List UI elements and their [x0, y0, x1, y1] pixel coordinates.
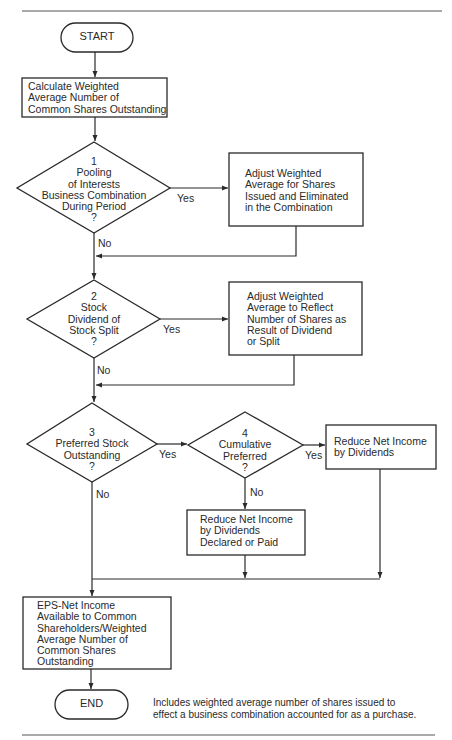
d4-no-label: No: [250, 486, 263, 498]
calc-box-text: Calculate Weighted Average Number of Com…: [28, 81, 166, 115]
text-line: Cumulative: [205, 439, 285, 450]
text-line: Common Shares Outstanding: [28, 104, 166, 115]
decision-3-text: 3 Preferred Stock Outstanding ?: [42, 427, 142, 472]
text-line: Outstanding: [37, 656, 147, 667]
d2-no-label: No: [97, 364, 110, 376]
adjust-split-text: Adjust Weighted Average to Reflect Numbe…: [247, 291, 346, 347]
footnote-line: Includes weighted average number of shar…: [153, 697, 416, 709]
d1-no-label: No: [98, 237, 111, 249]
footnote-line: effect a business combination accounted …: [153, 709, 416, 721]
text-line: or Split: [247, 336, 346, 347]
text-line: ?: [205, 462, 285, 473]
d2-yes-label: Yes: [163, 323, 180, 335]
reduce-declared-paid-text: Reduce Net Income by Dividends Declared …: [200, 514, 293, 548]
text-line: Stock: [44, 302, 144, 313]
text-line: Available to Common: [37, 611, 147, 622]
d3-no-label: No: [96, 488, 109, 500]
d4-yes-label: Yes: [305, 449, 322, 461]
return-line-1: [96, 226, 296, 256]
text-line: Average Number of: [28, 92, 166, 103]
text-line: ?: [44, 336, 144, 347]
text-line: in the Combination: [245, 202, 348, 213]
text-line: ?: [42, 461, 142, 472]
text-line: ?: [34, 212, 154, 223]
text-line: by Dividends: [334, 447, 427, 458]
reduce-by-dividends-text: Reduce Net Income by Dividends: [334, 436, 427, 459]
decision-4-text: 4 Cumulative Preferred ?: [205, 428, 285, 473]
text-line: Pooling: [34, 167, 154, 178]
text-line: Average to Reflect: [247, 302, 346, 313]
text-line: Average for Shares: [245, 179, 348, 190]
end-label: END: [55, 698, 128, 709]
text-line: Declared or Paid: [200, 537, 293, 548]
text-line: by Dividends: [200, 525, 293, 536]
return-line-2: [96, 355, 294, 385]
decision-2-text: 2 Stock Dividend of Stock Split ?: [44, 291, 144, 347]
footnote: Includes weighted average number of shar…: [153, 697, 416, 720]
text-line: Preferred Stock: [42, 438, 142, 449]
d3-yes-label: Yes: [159, 448, 176, 460]
eps-result-text: EPS-Net Income Available to Common Share…: [37, 600, 147, 668]
decision-1-text: 1 Pooling of Interests Business Combinat…: [34, 156, 154, 224]
d1-yes-label: Yes: [177, 192, 194, 204]
start-label: START: [61, 31, 133, 42]
adjust-combination-text: Adjust Weighted Average for Shares Issue…: [245, 168, 348, 213]
